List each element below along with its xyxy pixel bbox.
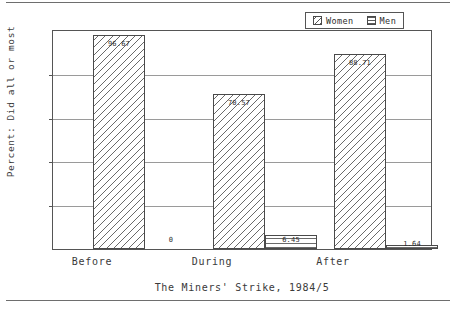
legend-swatch-men-icon	[367, 16, 376, 25]
bar-value-label-men-before: 0	[145, 236, 197, 244]
bottom-rule	[6, 300, 450, 301]
x-axis-title: The Miners' Strike, 1984/5	[52, 282, 432, 293]
y-axis-title: Percent: Did all or most	[5, 0, 16, 252]
x-tick-label-after: After	[273, 256, 393, 267]
y-tick-mark-60	[49, 119, 53, 120]
legend-item-men: Men	[367, 16, 397, 26]
bar-women-after	[334, 54, 386, 249]
y-tick-mark-20	[49, 206, 53, 207]
bar-value-label-women-during: 70.57	[213, 99, 265, 107]
bar-women-before	[93, 35, 145, 249]
bar-chart-figure: Women Men Percent: Did all or most 100 8…	[0, 0, 456, 300]
bar-value-label-men-after: 1.64	[386, 240, 438, 248]
bar-women-during	[213, 94, 265, 249]
bar-value-label-women-before: 96.67	[93, 40, 145, 48]
bar-value-label-men-during: 6.45	[265, 236, 317, 244]
legend-swatch-women-icon	[313, 16, 322, 25]
x-tick-label-during: During	[152, 256, 272, 267]
bar-value-label-women-after: 88.71	[334, 59, 386, 67]
y-tick-mark-80	[49, 75, 53, 76]
plot-area: 96.67 0 70.57 6.45 88.71 1.64	[52, 30, 432, 250]
legend-label-women: Women	[326, 16, 354, 26]
x-tick-label-before: Before	[32, 256, 152, 267]
y-tick-mark-40	[49, 162, 53, 163]
chart-legend: Women Men	[305, 12, 404, 29]
chart-page: Women Men Percent: Did all or most 100 8…	[0, 0, 456, 312]
legend-label-men: Men	[380, 16, 397, 26]
legend-item-women: Women	[313, 16, 354, 26]
